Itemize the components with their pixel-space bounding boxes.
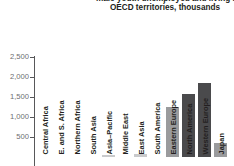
- y-tick-label: 1,000: [3, 113, 29, 121]
- y-tick-mark: [30, 57, 34, 58]
- y-tick-label: 1,500: [3, 93, 29, 101]
- y-tick-mark: [30, 97, 34, 98]
- y-tick-label: 2,500: [3, 53, 29, 61]
- plot-area: 5001,0001,5002,0002,500 Central AfricaE.…: [0, 0, 234, 166]
- y-tick-label: 500: [3, 133, 29, 141]
- category-label: Japan: [217, 133, 224, 154]
- category-label: South America: [153, 102, 160, 154]
- category-label: E. and S. Africa: [57, 100, 64, 154]
- category-label: East Asia: [137, 121, 144, 154]
- bar-asia-pacific: [102, 155, 115, 157]
- category-label: Northern Africa: [73, 100, 80, 154]
- chart-container: male youth unemployed and living in OECD…: [0, 0, 234, 166]
- category-label: North America: [185, 103, 192, 154]
- y-tick-label: 2,000: [3, 73, 29, 81]
- bar-east-asia: [134, 154, 147, 157]
- category-label: Middle East: [121, 113, 128, 154]
- category-label: Central Africa: [41, 106, 48, 154]
- y-axis-line: [34, 56, 35, 166]
- category-label: Eastern Europe: [169, 99, 176, 154]
- y-tick-mark: [30, 117, 34, 118]
- category-label: Asia–Pacific: [105, 110, 112, 154]
- y-tick-mark: [30, 137, 34, 138]
- y-tick-mark: [30, 77, 34, 78]
- category-label: South Asia: [89, 116, 96, 154]
- category-label: Western Europe: [201, 97, 208, 154]
